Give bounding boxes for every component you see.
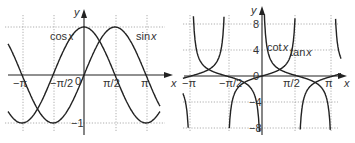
right-tick-neg-half-pi: −π/2: [219, 77, 242, 89]
right-origin-label: 0: [253, 70, 259, 82]
right-tick-y-neg8: −8: [249, 122, 262, 134]
right-tick-y-8: 8: [253, 18, 259, 30]
right-tick-y-neg4: −4: [249, 96, 262, 108]
cot-label: cotx: [267, 41, 289, 53]
tan-label: tanx: [290, 46, 312, 58]
left-y-axis-label: y: [73, 6, 81, 18]
right-grid: [183, 15, 338, 132]
tan-cot-chart: y x −π −π/2 π/2 π 0 8 4 −4 −8 cotx tanx: [182, 4, 350, 135]
left-tick-y-neg1: −1: [71, 117, 84, 129]
sin-label: sinx: [136, 30, 157, 42]
left-tick-half-pi: π/2: [103, 77, 120, 89]
left-origin-label: 0: [75, 75, 81, 87]
right-tick-y-4: 4: [253, 44, 259, 56]
sin-cos-chart: y x −π −π/2 π/2 π 0 −1 cosx sinx: [5, 6, 177, 135]
cos-label: cosx: [50, 30, 74, 42]
left-tick-pi: π: [141, 77, 149, 89]
left-tick-neg-half-pi: −π/2: [50, 77, 73, 89]
right-x-axis-label: x: [343, 77, 350, 89]
trig-function-charts: y x −π −π/2 π/2 π 0 −1 cosx sinx y: [0, 0, 355, 143]
left-tick-neg-pi: −π: [13, 77, 27, 89]
right-y-axis-label: y: [250, 4, 258, 16]
left-x-axis-label: x: [170, 77, 177, 89]
right-tick-pi: π: [325, 77, 333, 89]
right-tick-half-pi: π/2: [283, 77, 300, 89]
right-tick-neg-pi: −π: [182, 77, 196, 89]
